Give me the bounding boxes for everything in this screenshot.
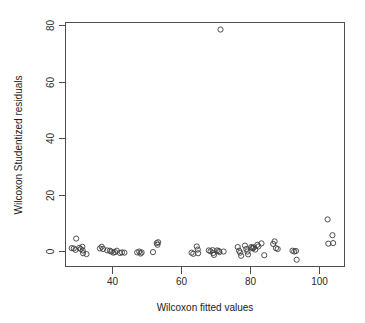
data-point <box>239 253 244 258</box>
data-point <box>194 244 199 249</box>
x-axis: 406080100 <box>107 267 328 288</box>
x-tick-label: 60 <box>176 276 188 287</box>
plot-canvas: 020406080 406080100 Wilcoxon fitted valu… <box>0 0 365 323</box>
data-point <box>218 27 223 32</box>
data-point <box>326 241 331 246</box>
y-tick-label: 0 <box>45 248 56 254</box>
data-points <box>69 27 336 262</box>
x-tick-label: 80 <box>245 276 257 287</box>
y-tick-label: 60 <box>45 77 56 89</box>
data-point <box>242 243 247 248</box>
y-tick-label: 80 <box>45 20 56 32</box>
y-tick-label: 40 <box>45 133 56 145</box>
y-tick-label: 20 <box>45 190 56 202</box>
data-point <box>84 251 89 256</box>
y-axis: 020406080 <box>45 20 66 255</box>
x-tick-label: 40 <box>107 276 119 287</box>
data-point <box>275 246 280 251</box>
scatter-plot-figure: 020406080 406080100 Wilcoxon fitted valu… <box>0 0 365 323</box>
data-point <box>196 251 201 256</box>
y-axis-title: Wilcoxon Studentized residuals <box>13 76 24 215</box>
data-point <box>330 233 335 238</box>
x-axis-title: Wilcoxon fitted values <box>157 302 254 313</box>
data-point <box>191 251 196 256</box>
data-point <box>74 236 79 241</box>
data-point <box>325 217 330 222</box>
data-point <box>294 257 299 262</box>
plot-box <box>66 23 345 267</box>
data-point <box>262 253 267 258</box>
x-tick-label: 100 <box>311 276 328 287</box>
data-point <box>331 240 336 245</box>
data-point <box>150 250 155 255</box>
